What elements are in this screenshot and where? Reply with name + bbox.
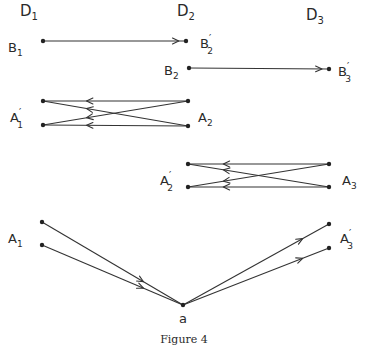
point-a1p-top bbox=[41, 99, 45, 103]
figure-caption: Figure 4 bbox=[160, 333, 208, 346]
label-a3p: A′3 bbox=[340, 228, 353, 251]
label-b2p: B′2 bbox=[200, 33, 213, 56]
label-a1p: A′1 bbox=[10, 107, 23, 130]
label-a3: A3 bbox=[342, 173, 357, 191]
arrow-edge bbox=[42, 222, 183, 305]
arrow-edge bbox=[43, 123, 188, 129]
arrow-edge bbox=[188, 161, 329, 167]
point-b2 bbox=[187, 66, 191, 70]
label-b1: B1 bbox=[8, 40, 23, 58]
point-b2p bbox=[184, 39, 188, 43]
column-label-d1: D1 bbox=[20, 2, 38, 22]
column-header-layer: D1D2D3 bbox=[20, 2, 324, 26]
point-label-layer: B1B′2B2B′3A′1A2A′2A3A1A′3a bbox=[8, 33, 357, 326]
point-a1p-bot bbox=[41, 123, 45, 127]
label-a2p: A′2 bbox=[160, 170, 173, 193]
point-b1 bbox=[41, 39, 45, 43]
point-a3-bot bbox=[327, 185, 331, 189]
edge-layer bbox=[42, 38, 329, 305]
point-a bbox=[181, 303, 185, 307]
point-b3p bbox=[327, 67, 331, 71]
point-a2p-top bbox=[186, 162, 190, 166]
arrow-edge bbox=[183, 248, 329, 305]
label-b3p: B′3 bbox=[338, 61, 351, 84]
point-a3-top bbox=[327, 162, 331, 166]
arrowhead-icon bbox=[137, 276, 144, 282]
column-label-d2: D2 bbox=[177, 2, 195, 22]
arrow-edge bbox=[43, 38, 186, 44]
arrow-edge bbox=[188, 184, 329, 190]
point-a3p-top bbox=[327, 222, 331, 226]
arrow-edge bbox=[189, 66, 329, 72]
arrow-edge bbox=[43, 98, 188, 104]
label-a1: A1 bbox=[8, 231, 23, 249]
point-a3p-bot bbox=[327, 246, 331, 250]
arrow-edge bbox=[42, 245, 183, 305]
point-a1-bot bbox=[40, 243, 44, 247]
label-b2: B2 bbox=[164, 63, 179, 81]
label-a: a bbox=[179, 311, 187, 326]
point-a2-bot bbox=[186, 124, 190, 128]
column-label-d3: D3 bbox=[306, 6, 324, 26]
arrow-edge bbox=[183, 224, 329, 305]
point-a1-top bbox=[40, 220, 44, 224]
diagram-canvas: D1D2D3 B1B′2B2B′3A′1A2A′2A3A1A′3a Figure… bbox=[0, 0, 368, 349]
point-layer bbox=[40, 39, 331, 307]
point-a2-top bbox=[186, 99, 190, 103]
label-a2: A2 bbox=[198, 110, 213, 128]
point-a2p-bot bbox=[186, 185, 190, 189]
